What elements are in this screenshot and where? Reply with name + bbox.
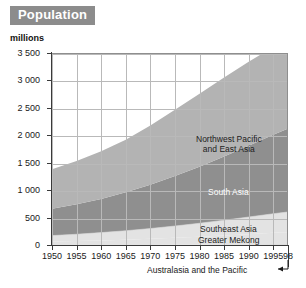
gridline-horizontal xyxy=(52,81,288,82)
series-label-line: Northwest Pacific xyxy=(196,134,262,144)
series-label-australasia-and-the-pacific: Australasia and the Pacific xyxy=(147,265,247,275)
x-axis-line xyxy=(51,245,289,246)
series-label-northwest-pacific-east-asia: Northwest Pacificand East Asia xyxy=(196,134,262,154)
y-axis-tick-label: 0 xyxy=(35,241,40,250)
series-label-greater-mekong: Greater Mekong xyxy=(198,235,259,245)
x-axis-tick-label: 1990 xyxy=(239,252,259,261)
series-label-line: and East Asia xyxy=(196,144,262,154)
y-axis-tick-label: 2 000 xyxy=(17,131,40,140)
x-axis-tick-mark xyxy=(224,246,225,250)
gridline-vertical xyxy=(101,54,102,245)
series-label-south-asia: South Asia xyxy=(208,187,249,197)
y-axis-tick-label: 1 500 xyxy=(17,159,40,168)
x-axis-tick-mark xyxy=(200,246,201,250)
gridline-vertical xyxy=(175,54,176,245)
x-axis-tick-label: 1970 xyxy=(140,252,160,261)
gridline-horizontal xyxy=(52,109,288,110)
y-axis-tick-label: 1 000 xyxy=(17,186,40,195)
x-axis-tick-mark xyxy=(288,246,289,250)
x-axis-tick-mark xyxy=(77,246,78,250)
x-axis-tick-label: 1965 xyxy=(116,252,136,261)
gridline-horizontal xyxy=(52,54,288,55)
x-axis-tick-label: 1980 xyxy=(189,252,209,261)
gridline-vertical xyxy=(273,54,274,245)
gridline-vertical xyxy=(52,54,53,245)
x-axis-tick-label: 1955 xyxy=(67,252,87,261)
x-axis-tick-mark xyxy=(249,246,250,250)
series-label-southeast-asia: Southeast Asia xyxy=(200,224,257,234)
x-axis-tick-label: 1950 xyxy=(42,252,62,261)
gridline-vertical xyxy=(126,54,127,245)
y-axis-tick-label: 500 xyxy=(25,214,40,223)
x-axis-tick-mark xyxy=(150,246,151,250)
gridline-horizontal xyxy=(52,164,288,165)
x-axis-tick-label: 1975 xyxy=(165,252,185,261)
x-axis-tick-mark xyxy=(175,246,176,250)
x-axis-tick-mark xyxy=(101,246,102,250)
y-axis-tick-label: 3 500 xyxy=(17,49,40,58)
y-axis-line xyxy=(51,52,52,246)
x-axis-tick-mark xyxy=(52,246,53,250)
y-axis-tick-label: 3 000 xyxy=(17,76,40,85)
gridline-vertical xyxy=(77,54,78,245)
x-axis-tick-label: 1960 xyxy=(91,252,111,261)
y-axis: 05001 0001 5002 0002 5003 0003 500 xyxy=(0,0,46,288)
y-axis-tick-label: 2 500 xyxy=(17,104,40,113)
x-axis-tick-mark xyxy=(273,246,274,250)
x-axis-tick-mark xyxy=(126,246,127,250)
annotation-arrow-icon xyxy=(272,259,294,273)
gridline-horizontal xyxy=(52,191,288,192)
gridline-vertical xyxy=(150,54,151,245)
gridline-horizontal xyxy=(52,219,288,220)
x-axis-tick-label: 1985 xyxy=(214,252,234,261)
